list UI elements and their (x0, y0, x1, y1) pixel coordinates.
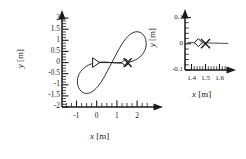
figure-canvas: 2 1.5 1 0.5 0 -0.5 -1 -1.5 -2 -1 0 1 2 x… (0, 0, 246, 159)
inset-y-tick-label-neg0p1: -0.1 (156, 66, 183, 73)
inset-x-tick-label-1p6: 1.6 (209, 75, 231, 82)
inset-x-axis-title: x [m] (192, 90, 211, 99)
inset-x-axis-title-var: x (192, 89, 196, 99)
inset-y-major-ticks (185, 18, 191, 71)
inset-x-axis-title-unit: [m] (198, 89, 211, 99)
inset-x-axis-arrowhead (227, 66, 237, 73)
inset-y-axis-title-unit: [m] (147, 28, 157, 41)
inset-x-major-ticks (192, 64, 220, 70)
inset-target-cross-marker (201, 39, 210, 48)
inset-trajectory-line (188, 43, 229, 44)
inset-y-tick-label-0p1: 0.1 (160, 14, 183, 21)
inset-plot-axes (181, 9, 236, 74)
inset-y-axis-title: y [m] (148, 16, 157, 60)
inset-y-axis-title-var: y (147, 43, 157, 47)
inset-y-tick-label-0: 0 (166, 40, 183, 47)
